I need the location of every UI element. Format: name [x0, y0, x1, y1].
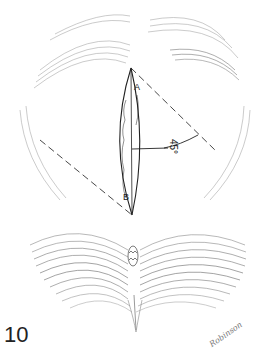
anus-detail [128, 246, 138, 266]
label-point-b: B [123, 192, 129, 202]
contour-hatching [20, 15, 250, 332]
illustration: A B 45° [0, 0, 273, 353]
angle-indicator [132, 135, 198, 149]
figure-number: 10 [4, 322, 28, 348]
label-point-a: A [134, 82, 140, 92]
label-angle: 45° [168, 139, 179, 154]
